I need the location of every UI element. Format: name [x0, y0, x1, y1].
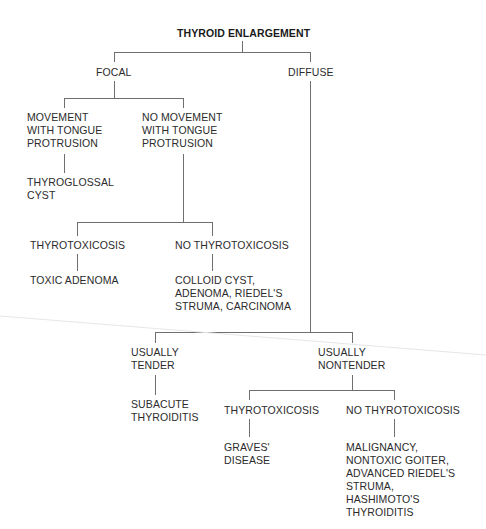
- node-focal: FOCAL: [96, 66, 132, 79]
- node-focal-thyrotoxicosis: THYROTOXICOSIS: [30, 239, 125, 252]
- connector: [249, 390, 395, 391]
- node-colloid-cyst-adenoma-riedels-struma-carcinoma: COLLOID CYST, ADENOMA, RIEDEL'S STRUMA, …: [175, 274, 291, 313]
- connector: [183, 154, 184, 222]
- flowchart: THYROID ENLARGEMENT FOCAL DIFFUSE MOVEME…: [0, 0, 486, 529]
- node-thyroglossal-cyst: THYROGLOSSAL CYST: [27, 176, 114, 202]
- connector: [114, 52, 115, 62]
- node-usually-tender: USUALLY TENDER: [131, 346, 179, 372]
- node-usually-nontender: USUALLY NONTENDER: [318, 346, 385, 372]
- connector: [394, 390, 395, 400]
- connector: [114, 52, 311, 53]
- connector: [249, 390, 250, 400]
- connector: [64, 98, 65, 108]
- node-focal-no-thyrotoxicosis: NO THYROTOXICOSIS: [175, 239, 289, 252]
- connector: [249, 419, 250, 437]
- connector: [212, 254, 213, 271]
- connector: [64, 154, 65, 173]
- connector: [183, 98, 184, 108]
- connector: [77, 222, 213, 223]
- node-no-movement-with-tongue-protrusion: NO MOVEMENT WITH TONGUE PROTRUSION: [142, 111, 222, 150]
- connector: [352, 332, 353, 343]
- connector: [310, 52, 311, 62]
- node-malignancy-nontoxic-goiter-riedels-hashimotos: MALIGNANCY, NONTOXIC GOITER, ADVANCED RI…: [346, 441, 455, 519]
- connector: [77, 254, 78, 271]
- connector: [242, 41, 243, 52]
- node-graves-disease: GRAVES' DISEASE: [224, 441, 270, 467]
- node-diffuse: DIFFUSE: [288, 66, 334, 79]
- connector: [155, 332, 156, 343]
- node-movement-with-tongue-protrusion: MOVEMENT WITH TONGUE PROTRUSION: [27, 111, 102, 150]
- node-toxic-adenoma: TOXIC ADENOMA: [30, 274, 119, 287]
- connector: [77, 222, 78, 236]
- node-diffuse-thyrotoxicosis: THYROTOXICOSIS: [224, 404, 319, 417]
- node-diffuse-no-thyrotoxicosis: NO THYROTOXICOSIS: [346, 404, 460, 417]
- node-subacute-thyroiditis: SUBACUTE THYROIDITIS: [131, 398, 199, 424]
- connector: [155, 332, 353, 333]
- connector: [155, 375, 156, 395]
- connector: [394, 419, 395, 437]
- connector: [310, 81, 311, 332]
- connector: [114, 81, 115, 98]
- connector: [212, 222, 213, 236]
- title-thyroid-enlargement: THYROID ENLARGEMENT: [177, 27, 310, 40]
- connector: [352, 375, 353, 390]
- connector: [64, 98, 184, 99]
